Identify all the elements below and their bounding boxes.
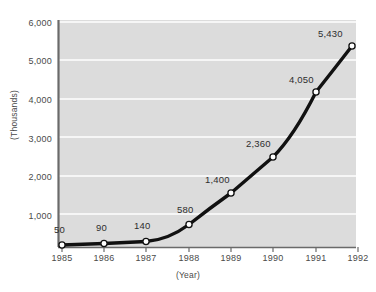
plot-area [0, 0, 376, 292]
data-point-label: 140 [134, 220, 150, 231]
data-point-label: 50 [54, 224, 65, 235]
line-chart: (Thousands) 6,000 5,000 4,000 3,000 2,00… [0, 0, 376, 292]
data-point-label: 5,430 [318, 28, 343, 39]
data-point-label: 90 [96, 222, 107, 233]
plot-background [58, 20, 356, 247]
data-point-label: 4,050 [289, 74, 314, 85]
data-point-label: 580 [177, 204, 193, 215]
data-point-label: 1,400 [205, 174, 230, 185]
data-point-label: 2,360 [246, 138, 271, 149]
